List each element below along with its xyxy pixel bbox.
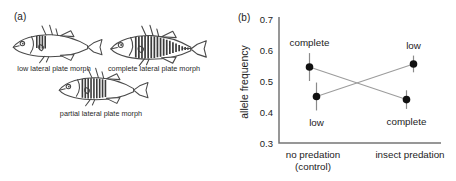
data-point-complete (403, 96, 411, 104)
y-tick-label: 0.4 (260, 107, 273, 118)
data-point-low (313, 93, 321, 101)
allele-frequency-chart: 0.30.40.50.60.7allele frequencycompletec… (228, 0, 456, 181)
panel-a-tag: (a) (14, 11, 26, 22)
point-label-low: low (309, 117, 325, 128)
fish-partial-drawing (56, 67, 152, 107)
data-point-low (410, 60, 418, 68)
series-line-low (317, 64, 414, 97)
point-label-complete: complete (387, 116, 427, 127)
x-category-sublabel: (control) (295, 161, 331, 172)
data-point-complete (306, 63, 314, 71)
point-label-complete: complete (290, 37, 330, 48)
y-tick-label: 0.7 (260, 14, 273, 25)
fish-low-drawing (10, 24, 106, 64)
fish-complete-drawing (107, 24, 211, 67)
figure-stickleback-predation: (a) low lateral plate morph complete lat… (0, 0, 456, 181)
fish-partial-label: partial lateral plate morph (51, 109, 151, 118)
lateral-plates-partial (82, 78, 105, 98)
x-category-label: no predation (286, 149, 340, 160)
y-tick-label: 0.5 (260, 76, 273, 87)
point-label-low: low (406, 40, 422, 51)
panel-a: (a) low lateral plate morph complete lat… (0, 0, 228, 181)
x-category-label: insect predation (375, 149, 444, 160)
panel-b: (b) 0.30.40.50.60.7allele frequencycompl… (228, 0, 456, 181)
y-tick-label: 0.3 (260, 138, 273, 149)
y-tick-label: 0.6 (260, 45, 273, 56)
y-axis-label: allele frequency (238, 44, 250, 118)
series-line-complete (310, 67, 407, 100)
fish-complete-morph (107, 24, 211, 67)
fish-partial-morph (56, 67, 152, 107)
fish-low-morph (10, 24, 106, 64)
